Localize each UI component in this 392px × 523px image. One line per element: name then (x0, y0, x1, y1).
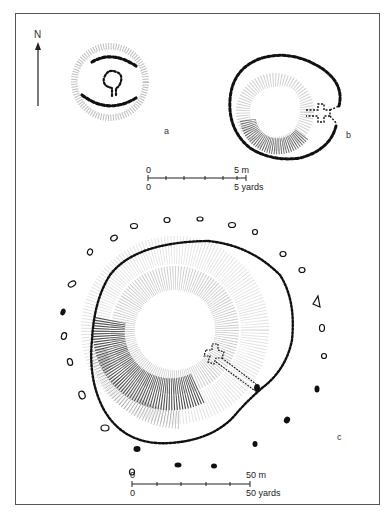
scale-large-zero-m: 0 (130, 471, 135, 480)
scale-bar-large (0, 0, 392, 523)
scale-large-end-m: 50 m (246, 471, 266, 480)
scale-large-zero-yd: 0 (130, 489, 135, 498)
scale-large-end-yd: 50 yards (246, 489, 281, 498)
